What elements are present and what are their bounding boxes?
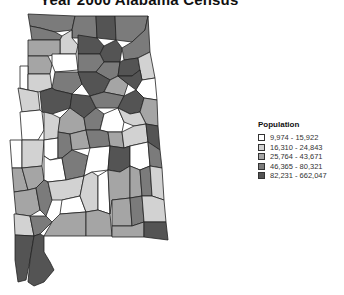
county	[52, 54, 78, 72]
county	[130, 196, 144, 226]
county	[86, 210, 112, 236]
legend-label: 46,365 - 80,321	[270, 162, 323, 171]
legend-item: 25,764 - 43,671	[258, 152, 327, 162]
county	[72, 16, 97, 38]
county	[14, 188, 40, 216]
county	[100, 40, 122, 62]
county	[18, 88, 40, 112]
county	[10, 140, 22, 168]
legend-swatch	[258, 163, 265, 170]
legend-item: 46,365 - 80,321	[258, 162, 327, 172]
legend-title: Population	[258, 120, 327, 129]
legend-label: 82,231 - 662,047	[270, 171, 327, 180]
legend-swatch	[258, 144, 265, 151]
county	[20, 66, 28, 90]
legend-swatch	[258, 153, 265, 160]
legend-item: 82,231 - 662,047	[258, 171, 327, 181]
county	[22, 140, 44, 168]
county	[20, 110, 44, 140]
county	[108, 132, 124, 148]
county	[112, 198, 132, 226]
legend-item: 9,974 - 15,922	[258, 133, 327, 143]
county	[86, 130, 110, 148]
county	[142, 196, 166, 222]
county	[150, 166, 164, 200]
county	[144, 222, 168, 240]
legend-label: 25,764 - 43,671	[270, 152, 323, 161]
county	[44, 138, 58, 160]
legend-item: 16,310 - 24,843	[258, 143, 327, 153]
county	[130, 142, 150, 170]
legend-swatch	[258, 172, 265, 179]
county	[96, 16, 116, 40]
legend-label: 16,310 - 24,843	[270, 143, 323, 152]
legend-swatch	[258, 134, 265, 141]
legend-label: 9,974 - 15,922	[270, 133, 318, 142]
map-legend: Population 9,974 - 15,922 16,310 - 24,84…	[258, 120, 327, 181]
county	[28, 56, 52, 74]
